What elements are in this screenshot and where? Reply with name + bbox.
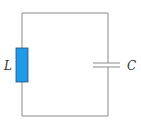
inductor-symbol [16, 48, 28, 82]
inductor-label: L [3, 59, 12, 73]
capacitor-label: C [127, 59, 136, 73]
lc-circuit-diagram: L C [0, 0, 141, 123]
